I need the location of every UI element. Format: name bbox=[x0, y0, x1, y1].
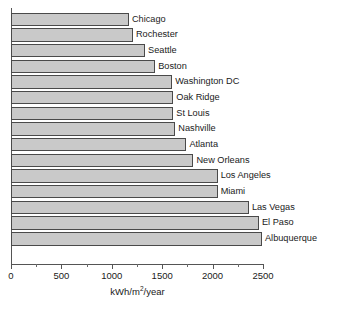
bar-los-angeles bbox=[11, 169, 218, 182]
bar-label: Albuquerque bbox=[265, 231, 317, 246]
bar-row: New Orleans bbox=[0, 153, 344, 169]
x-tick-minor bbox=[238, 264, 239, 267]
x-axis-title: kWh/m2/year bbox=[0, 286, 275, 298]
bar-label: Atlanta bbox=[189, 137, 218, 152]
bar-label: Chicago bbox=[132, 12, 166, 27]
x-tick-label: 500 bbox=[53, 270, 69, 282]
plot-area: ChicagoRochesterSeattleBostonWashington … bbox=[0, 0, 344, 270]
bar-nashville bbox=[11, 122, 175, 135]
bar-label: Washington DC bbox=[175, 74, 239, 89]
bar-washington-dc bbox=[11, 75, 172, 88]
bar-row: Oak Ridge bbox=[0, 90, 344, 106]
bar-row: Rochester bbox=[0, 28, 344, 44]
bar-label: Miami bbox=[221, 184, 246, 199]
x-tick-minor bbox=[187, 264, 188, 267]
bar-albuquerque bbox=[11, 232, 262, 245]
bar-row: Las Vegas bbox=[0, 200, 344, 216]
x-tick-label: 0 bbox=[8, 270, 13, 282]
bar-chicago bbox=[11, 13, 129, 26]
bar-boston bbox=[11, 60, 155, 73]
x-tick-minor bbox=[36, 264, 37, 267]
bar-label: Nashville bbox=[178, 121, 215, 136]
x-tick-minor bbox=[87, 264, 88, 267]
bars-group: ChicagoRochesterSeattleBostonWashington … bbox=[0, 12, 344, 247]
bar-atlanta bbox=[11, 138, 186, 151]
x-axis-title-exponent: 2 bbox=[140, 285, 144, 292]
x-tick-major bbox=[11, 264, 12, 269]
bar-miami bbox=[11, 185, 218, 198]
x-tick-major bbox=[61, 264, 62, 269]
bar-label: El Paso bbox=[262, 215, 294, 230]
bar-label: Rochester bbox=[136, 27, 178, 42]
bar-row: Atlanta bbox=[0, 138, 344, 154]
bar-st-louis bbox=[11, 107, 173, 120]
bar-rochester bbox=[11, 28, 133, 41]
x-tick-major bbox=[162, 264, 163, 269]
x-tick-major bbox=[112, 264, 113, 269]
bar-el-paso bbox=[11, 216, 259, 229]
bar-label: Las Vegas bbox=[252, 200, 295, 215]
bar-label: Seattle bbox=[148, 43, 177, 58]
bar-row: Nashville bbox=[0, 122, 344, 138]
bar-row: Seattle bbox=[0, 43, 344, 59]
bar-row: El Paso bbox=[0, 216, 344, 232]
x-tick-major bbox=[263, 264, 264, 269]
bar-row: Albuquerque bbox=[0, 232, 344, 248]
bar-row: Los Angeles bbox=[0, 169, 344, 185]
bar-label: Los Angeles bbox=[221, 168, 271, 183]
x-tick-minor bbox=[137, 264, 138, 267]
bar-row: Miami bbox=[0, 185, 344, 201]
x-tick-label: 1500 bbox=[152, 270, 173, 282]
bar-row: Washington DC bbox=[0, 75, 344, 91]
bar-oak-ridge bbox=[11, 91, 173, 104]
bar-row: Chicago bbox=[0, 12, 344, 28]
bar-label: Oak Ridge bbox=[176, 90, 219, 105]
bar-row: Boston bbox=[0, 59, 344, 75]
bar-seattle bbox=[11, 44, 145, 57]
bar-chart-figure: ChicagoRochesterSeattleBostonWashington … bbox=[0, 0, 344, 314]
bar-label: New Orleans bbox=[196, 153, 249, 168]
bar-label: Boston bbox=[158, 59, 187, 74]
bar-label: St Louis bbox=[176, 106, 209, 121]
bar-new-orleans bbox=[11, 154, 193, 167]
x-tick-major bbox=[213, 264, 214, 269]
bar-row: St Louis bbox=[0, 106, 344, 122]
bar-las-vegas bbox=[11, 201, 249, 214]
x-tick-label: 2000 bbox=[202, 270, 223, 282]
x-tick-label: 2500 bbox=[252, 270, 273, 282]
x-tick-label: 1000 bbox=[101, 270, 122, 282]
